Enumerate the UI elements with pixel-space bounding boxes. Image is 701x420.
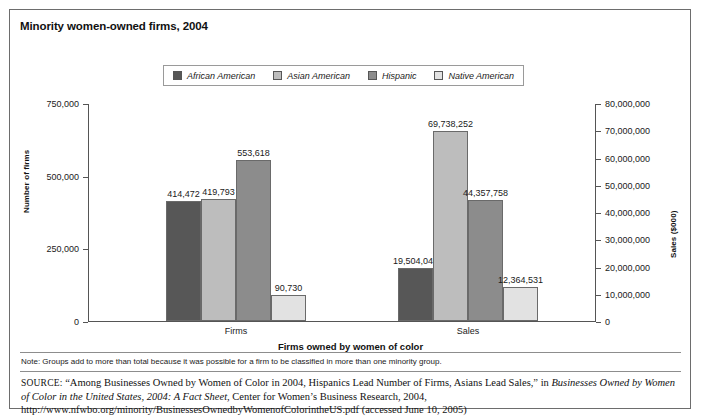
y-axis-left-title: Number of firms <box>22 150 31 213</box>
bar-value-label: 414,472 <box>167 189 200 199</box>
legend-swatch-icon <box>434 71 443 80</box>
legend-item-label: Asian American <box>287 71 350 81</box>
bar[interactable] <box>398 268 433 321</box>
y-axis-right-tick-label: 60,000,000 <box>605 154 650 164</box>
chart-legend: African AmericanAsian AmericanHispanicNa… <box>163 65 524 86</box>
legend-swatch-icon <box>368 71 377 80</box>
y-axis-right-tick <box>596 131 601 132</box>
y-axis-left-tick-label: 250,000 <box>46 244 79 254</box>
y-axis-right-tick <box>596 295 601 296</box>
source-label: SOURCE: <box>21 378 63 388</box>
y-axis-right-tick <box>596 213 601 214</box>
bar[interactable] <box>433 131 468 321</box>
legend-item[interactable]: Native American <box>434 71 514 81</box>
bar[interactable] <box>468 200 503 321</box>
y-axis-right-tick-label: 10,000,000 <box>605 290 650 300</box>
bar[interactable] <box>271 295 306 321</box>
y-axis-left-tick-label: 750,000 <box>46 99 79 109</box>
y-axis-left-tick-label: 0 <box>74 317 79 327</box>
y-axis-left-tick <box>83 177 88 178</box>
y-axis-right-tick <box>596 322 601 323</box>
source-divider <box>20 371 681 372</box>
bar-value-label: 44,357,758 <box>463 188 508 198</box>
bar-value-label: 19,504,040 <box>393 256 438 266</box>
x-axis-title: Firms owned by women of color <box>0 341 701 352</box>
bar[interactable] <box>236 160 271 321</box>
y-axis-right-tick-label: 0 <box>605 317 610 327</box>
y-axis-right-tick <box>596 159 601 160</box>
y-axis-right-tick <box>596 268 601 269</box>
bar-value-label: 90,730 <box>275 283 303 293</box>
y-axis-left-tick <box>83 104 88 105</box>
y-axis-right-tick-label: 20,000,000 <box>605 263 650 273</box>
legend-item-label: Hispanic <box>382 71 417 81</box>
bar[interactable] <box>166 201 201 321</box>
y-axis-left-tick <box>83 322 88 323</box>
legend-swatch-icon <box>173 71 182 80</box>
bar[interactable] <box>503 287 538 321</box>
bar-value-label: 12,364,531 <box>498 275 543 285</box>
y-axis-right-tick-label: 40,000,000 <box>605 208 650 218</box>
bar-value-label: 69,738,252 <box>428 119 473 129</box>
y-axis-left-tick <box>83 249 88 250</box>
figure-page: Minority women-owned firms, 2004 African… <box>0 0 701 420</box>
legend-item[interactable]: African American <box>173 71 255 81</box>
x-axis <box>88 321 596 322</box>
y-axis-right-tick <box>596 104 601 105</box>
bar-value-label: 553,618 <box>237 148 270 158</box>
y-axis-right-tick <box>596 240 601 241</box>
figure-note: Note: Groups add to more than total beca… <box>21 357 442 366</box>
x-axis-category-label: Sales <box>457 326 480 336</box>
y-axis-left-tick-label: 500,000 <box>46 172 79 182</box>
legend-item[interactable]: Hispanic <box>368 71 417 81</box>
y-axis-right-tick-label: 80,000,000 <box>605 99 650 109</box>
legend-item-label: African American <box>187 71 255 81</box>
y-axis-right-tick-label: 50,000,000 <box>605 181 650 191</box>
x-axis-category-label: Firms <box>225 326 248 336</box>
y-axis-right-tick-label: 30,000,000 <box>605 235 650 245</box>
plot-area: 0250,000500,000750,000010,000,00020,000,… <box>88 104 596 322</box>
note-divider <box>20 352 681 353</box>
bar[interactable] <box>201 199 236 321</box>
figure-source: SOURCE: “Among Businesses Owned by Women… <box>21 376 676 417</box>
source-text-1: “Among Businesses Owned by Women of Colo… <box>63 377 552 388</box>
y-axis-right-tick-label: 70,000,000 <box>605 126 650 136</box>
legend-item-label: Native American <box>448 71 514 81</box>
legend-swatch-icon <box>273 71 282 80</box>
legend-item[interactable]: Asian American <box>273 71 350 81</box>
y-axis-left <box>88 104 89 322</box>
y-axis-right-tick <box>596 186 601 187</box>
page-title: Minority women-owned firms, 2004 <box>20 20 208 32</box>
y-axis-right-title: Sales ($000) <box>669 211 678 258</box>
bar-value-label: 419,793 <box>202 187 235 197</box>
